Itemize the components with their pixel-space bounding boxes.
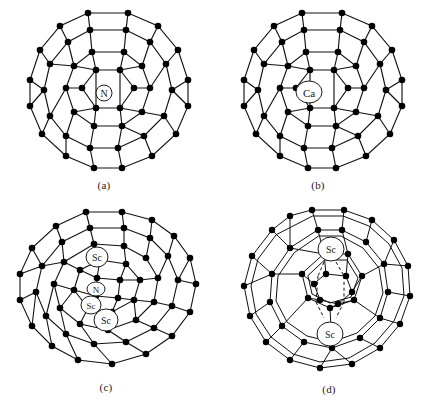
atom-label: N	[93, 285, 100, 295]
panel-a-diagram: N	[18, 8, 198, 176]
encapsulated-atom-n: N	[96, 85, 112, 101]
panel-c: Sc N Sc Sc	[12, 208, 202, 380]
endohedral-fullerene-figure: N (a)	[0, 0, 436, 409]
encapsulated-atom-n-center: N	[87, 282, 105, 296]
atom-label: Sc	[87, 301, 96, 311]
atom-label: Sc	[326, 244, 337, 255]
panel-c-diagram: Sc N Sc Sc	[12, 208, 202, 380]
encapsulated-atom-ca: Ca	[296, 81, 322, 103]
encapsulated-atom-sc-top-d: Sc	[318, 237, 344, 261]
encapsulated-cluster-sc3n: Sc N Sc Sc	[81, 247, 118, 331]
panel-a: N	[18, 8, 198, 176]
caption-b: (b)	[288, 179, 348, 191]
encapsulated-atom-sc-bottom-d: Sc	[317, 322, 343, 346]
panel-b: Ca	[232, 8, 412, 176]
cage-vertices-b	[241, 10, 406, 172]
panel-b-diagram: Ca	[232, 8, 412, 176]
panel-d-diagram: Sc Sc	[238, 206, 418, 382]
cage-bonds-b	[244, 13, 402, 168]
caption-d: (d)	[299, 383, 359, 395]
atom-label: Sc	[325, 329, 336, 340]
atom-label: Ca	[303, 87, 315, 99]
encapsulated-atom-sc-top: Sc	[86, 247, 108, 267]
atom-label: Sc	[101, 315, 112, 326]
caption-a: (a)	[74, 179, 134, 191]
atom-label: N	[100, 88, 107, 99]
encapsulated-atom-sc-bottom: Sc	[94, 309, 118, 331]
cage-bonds-c	[20, 212, 196, 364]
atom-label: Sc	[92, 252, 103, 263]
panel-d: Sc Sc	[238, 206, 418, 382]
caption-c: (c)	[76, 381, 136, 393]
